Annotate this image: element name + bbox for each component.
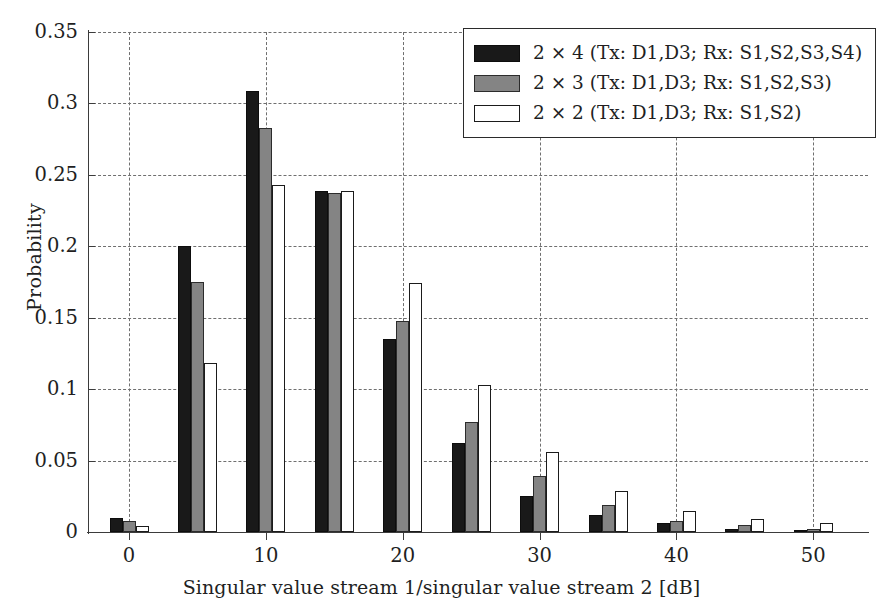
x-axis-tick-mark	[676, 533, 677, 540]
y-axis-tick-label: 0	[16, 522, 78, 542]
bar[interactable]	[520, 496, 533, 532]
bar[interactable]	[272, 185, 285, 532]
x-axis-tick-mark	[813, 533, 814, 540]
bar[interactable]	[396, 321, 409, 532]
bar[interactable]	[738, 525, 751, 532]
legend-item[interactable]: 2 × 3 (Tx: D1,D3; Rx: S1,S2,S3)	[474, 68, 862, 98]
y-axis-tick-label: 0.3	[16, 94, 78, 114]
bar[interactable]	[615, 491, 628, 532]
bar[interactable]	[246, 91, 259, 532]
bar-group	[315, 32, 354, 532]
y-axis-tick-label: 0.15	[16, 308, 78, 328]
x-axis-tick-label: 30	[505, 546, 575, 566]
bar[interactable]	[807, 529, 820, 532]
x-axis-tick-label: 20	[368, 546, 438, 566]
bar[interactable]	[341, 191, 354, 532]
y-axis-tick-label: 0.05	[16, 451, 78, 471]
bar[interactable]	[136, 526, 149, 532]
bar[interactable]	[751, 519, 764, 532]
legend-item-label: 2 × 3 (Tx: D1,D3; Rx: S1,S2,S3)	[533, 74, 832, 93]
x-axis-title: Singular value stream 1/singular value s…	[0, 576, 883, 598]
black-filled-swatch	[474, 45, 520, 62]
bar[interactable]	[683, 511, 696, 532]
bar[interactable]	[602, 505, 615, 532]
legend-item[interactable]: 2 × 4 (Tx: D1,D3; Rx: S1,S2,S3,S4)	[474, 38, 862, 68]
gray-filled-swatch	[474, 75, 520, 92]
bar[interactable]	[409, 283, 422, 532]
bar[interactable]	[657, 523, 670, 532]
y-axis-tick-mark	[88, 103, 95, 104]
bar[interactable]	[178, 246, 191, 532]
x-axis-tick-mark	[540, 533, 541, 540]
bar[interactable]	[259, 128, 272, 532]
white-outline-swatch	[474, 105, 520, 122]
x-axis-tick-label: 50	[778, 546, 848, 566]
x-axis-tick-mark	[129, 533, 130, 540]
bar[interactable]	[794, 530, 807, 532]
bar[interactable]	[204, 363, 217, 532]
bar-group	[178, 32, 217, 532]
y-axis-tick-mark	[88, 32, 95, 33]
y-axis-tick-label: 0.35	[16, 22, 78, 42]
x-axis-line	[87, 532, 869, 533]
bar[interactable]	[465, 422, 478, 532]
y-axis-tick-label: 0.1	[16, 379, 78, 399]
bar[interactable]	[546, 452, 559, 532]
bar-group	[383, 32, 422, 532]
y-axis-tick-mark	[88, 389, 95, 390]
bar[interactable]	[383, 339, 396, 532]
bar[interactable]	[191, 282, 204, 532]
bar-group	[246, 32, 285, 532]
legend-item[interactable]: 2 × 2 (Tx: D1,D3; Rx: S1,S2)	[474, 98, 862, 128]
chart-legend: 2 × 4 (Tx: D1,D3; Rx: S1,S2,S3,S4) 2 × 3…	[463, 28, 876, 138]
bar[interactable]	[589, 515, 602, 532]
bar[interactable]	[452, 443, 465, 532]
y-axis-tick-mark	[88, 318, 95, 319]
bar-group	[110, 32, 149, 532]
bar[interactable]	[328, 193, 341, 532]
x-axis-tick-label: 0	[94, 546, 164, 566]
y-axis-tick-mark	[88, 246, 95, 247]
bar[interactable]	[478, 385, 491, 532]
x-axis-tick-mark	[266, 533, 267, 540]
legend-item-label: 2 × 4 (Tx: D1,D3; Rx: S1,S2,S3,S4)	[533, 44, 862, 63]
bar[interactable]	[820, 523, 833, 532]
y-axis-tick-label: 0.25	[16, 165, 78, 185]
y-axis-tick-labels: 00.050.10.150.20.250.30.35	[16, 0, 78, 613]
bar-chart-figure: Probability 00.050.10.150.20.250.30.35 S…	[0, 0, 883, 613]
bar[interactable]	[110, 518, 123, 532]
bar[interactable]	[533, 476, 546, 532]
bar[interactable]	[123, 521, 136, 532]
x-axis-tick-mark	[403, 533, 404, 540]
y-axis-tick-mark	[88, 461, 95, 462]
x-axis-tick-label: 10	[231, 546, 301, 566]
legend-item-label: 2 × 2 (Tx: D1,D3; Rx: S1,S2)	[533, 104, 801, 123]
bar[interactable]	[725, 529, 738, 532]
bar[interactable]	[315, 191, 328, 532]
y-axis-tick-label: 0.2	[16, 237, 78, 257]
x-axis-tick-label: 40	[641, 546, 711, 566]
bar[interactable]	[670, 521, 683, 532]
y-axis-tick-mark	[88, 175, 95, 176]
